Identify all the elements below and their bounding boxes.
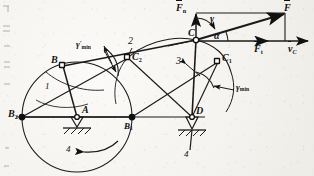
label-point-C1: C1 bbox=[222, 53, 232, 64]
scan-artifacts bbox=[3, 6, 10, 166]
rotation-arrow bbox=[84, 141, 118, 152]
label-angle-gamma-min-prime: γ′min bbox=[76, 40, 91, 50]
rocker-arc-lower-left bbox=[115, 62, 124, 104]
label-angle-gamma: γ bbox=[210, 14, 214, 24]
label-point-B: B bbox=[51, 55, 58, 65]
angle-pointer-C2-up bbox=[104, 46, 112, 64]
rocker-C2D bbox=[128, 58, 192, 117]
label-vector-F: F bbox=[284, 3, 291, 13]
label-point-B2: B2 bbox=[8, 109, 18, 120]
label-link-3: 3 bbox=[176, 56, 181, 66]
coupler-extension bbox=[168, 40, 196, 46]
rocker-arc-lower bbox=[226, 72, 234, 112]
angle-leader-gamma-min-prime bbox=[104, 50, 116, 72]
joint-markers bbox=[19, 37, 219, 119]
label-point-B1: B1 bbox=[124, 122, 133, 132]
label-link-4-at-D: 4 bbox=[184, 150, 189, 159]
label-point-A: A bbox=[82, 105, 89, 115]
label-point-C2: C2 bbox=[132, 52, 142, 63]
label-vector-Fn: Fn bbox=[176, 3, 186, 14]
angle-pointer-C1 bbox=[186, 64, 200, 76]
label-vector-vC: vC bbox=[288, 44, 297, 55]
crank-AB bbox=[63, 66, 77, 117]
label-vector-Ft: Ft bbox=[254, 44, 263, 55]
label-link-4-at-A: 4 bbox=[66, 145, 71, 154]
label-angle-alpha: α bbox=[214, 31, 220, 41]
construction-arc-B bbox=[46, 72, 104, 90]
ground-symbol-D bbox=[178, 117, 206, 150]
label-link-1: 1 bbox=[45, 82, 50, 91]
label-link-2: 2 bbox=[128, 36, 133, 46]
label-angle-gamma-min: γmin bbox=[236, 83, 249, 93]
angle-arc-alpha bbox=[226, 32, 228, 41]
angle-leader-gamma-min bbox=[214, 86, 234, 90]
label-point-C: C bbox=[188, 28, 195, 38]
construction-arc-B2 bbox=[36, 100, 88, 107]
label-point-D: D bbox=[196, 106, 203, 116]
figure-canvas: B B2 B1 A D C C1 C2 1 2 3 4 4 F Fn Ft vC… bbox=[0, 0, 314, 176]
